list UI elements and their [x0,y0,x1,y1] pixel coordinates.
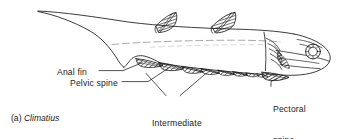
gill-arches [266,38,290,69]
dorsal-fin-anterior [155,12,177,32]
label-pectoral-spine-line1: Pectoral [273,104,306,114]
dorsal-fin-posterior [211,12,236,33]
caption-prefix: (a) [11,113,22,123]
pelvic-spine [159,63,184,71]
leader-intermediate-right [180,73,206,95]
label-pectoral-spine-line2: spine [273,135,306,139]
label-intermediate-spines-line1: Intermediate [152,118,202,128]
figure-climatius: Anal fin Pelvic spine Intermediate spine… [0,0,340,139]
caption-taxon-name: Climatius [24,113,59,123]
lateral-line-secondary [150,45,264,48]
leader-pelvic-spine [122,68,168,81]
lateral-line [112,40,280,44]
figure-caption: (a) Climatius [11,113,59,123]
label-intermediate-spines: Intermediate spines [152,98,202,139]
label-pectoral-spine: Pectoral spine [273,84,306,139]
label-pelvic-spine: Pelvic spine [70,78,118,88]
label-anal-fin: Anal fin [57,67,87,77]
